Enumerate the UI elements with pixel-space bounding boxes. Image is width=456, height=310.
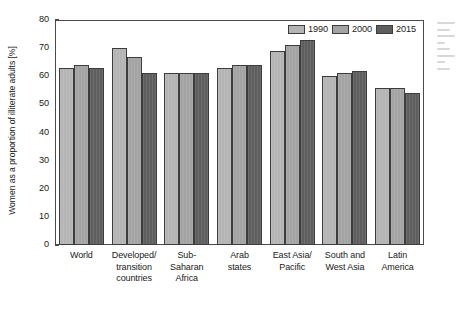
x-axis-label-line: Sub- <box>160 250 213 262</box>
legend-swatch <box>376 25 393 34</box>
figure: Women as a proportion of illiterate adul… <box>0 0 456 310</box>
bar <box>179 73 194 245</box>
bar <box>375 88 390 246</box>
x-axis-label-line: South and <box>319 250 372 262</box>
x-axis-label: Arabstates <box>213 250 266 273</box>
x-axis-label-line: states <box>213 262 266 274</box>
legend-label: 2000 <box>352 24 372 34</box>
bar <box>405 93 420 245</box>
x-axis-label-line: West Asia <box>319 262 372 274</box>
x-axis-label-line: America <box>371 262 424 274</box>
bar <box>89 68 104 245</box>
y-tick-label: 0 <box>0 239 55 251</box>
legend-label: 2015 <box>396 24 416 34</box>
legend-swatch <box>332 25 349 34</box>
x-axis-label-line: East Asia/ <box>266 250 319 262</box>
x-axis-label-line: Saharan <box>160 262 213 274</box>
bars-layer <box>55 20 424 245</box>
x-axis-label-line: Arab <box>213 250 266 262</box>
bar <box>285 45 300 245</box>
x-axis-label: South andWest Asia <box>319 250 372 273</box>
bar <box>232 65 247 245</box>
bar <box>194 73 209 245</box>
bar-group <box>371 20 424 245</box>
x-axis-label: Developed/transitioncountries <box>108 250 161 285</box>
legend-label: 1990 <box>308 24 328 34</box>
bar <box>322 76 337 245</box>
y-tick-label: 50 <box>0 98 55 110</box>
y-tick-label: 70 <box>0 42 55 54</box>
y-tick-label: 40 <box>0 127 55 139</box>
bar <box>352 71 367 245</box>
y-tick-label: 30 <box>0 155 55 167</box>
bar <box>337 73 352 245</box>
bar-group <box>213 20 266 245</box>
x-axis-label-line: transition <box>108 262 161 274</box>
x-axis-label: World <box>55 250 108 262</box>
x-axis-label-line: World <box>55 250 108 262</box>
bar-group <box>319 20 372 245</box>
bar <box>127 57 142 245</box>
legend-item: 1990 <box>288 24 328 34</box>
bar <box>112 48 127 245</box>
legend-swatch <box>288 25 305 34</box>
bar <box>217 68 232 245</box>
bar-group <box>55 20 108 245</box>
x-axis-label-line: Africa <box>160 273 213 285</box>
legend-item: 2015 <box>376 24 416 34</box>
y-tick-label: 10 <box>0 211 55 223</box>
bar <box>390 88 405 246</box>
legend: 199020002015 <box>288 24 416 34</box>
x-axis-labels: WorldDeveloped/transitioncountriesSub-Sa… <box>55 250 424 308</box>
x-axis-label: East Asia/Pacific <box>266 250 319 273</box>
x-axis-label-line: Developed/ <box>108 250 161 262</box>
caption-edge-artifact <box>437 22 456 84</box>
y-tick-label: 80 <box>0 14 55 26</box>
bar <box>142 73 157 245</box>
x-axis-label-line: countries <box>108 273 161 285</box>
bar <box>270 51 285 245</box>
y-tick-label: 20 <box>0 183 55 195</box>
bar-group <box>108 20 161 245</box>
bar <box>74 65 89 245</box>
bar <box>59 68 74 245</box>
bar <box>300 40 315 245</box>
x-axis-label: Sub-SaharanAfrica <box>160 250 213 285</box>
bar <box>164 73 179 245</box>
x-axis-label-line: Latin <box>371 250 424 262</box>
bar-group <box>266 20 319 245</box>
bar <box>247 65 262 245</box>
x-axis-label-line: Pacific <box>266 262 319 274</box>
bar-group <box>160 20 213 245</box>
legend-item: 2000 <box>332 24 372 34</box>
y-tick-label: 60 <box>0 70 55 82</box>
x-axis-label: LatinAmerica <box>371 250 424 273</box>
